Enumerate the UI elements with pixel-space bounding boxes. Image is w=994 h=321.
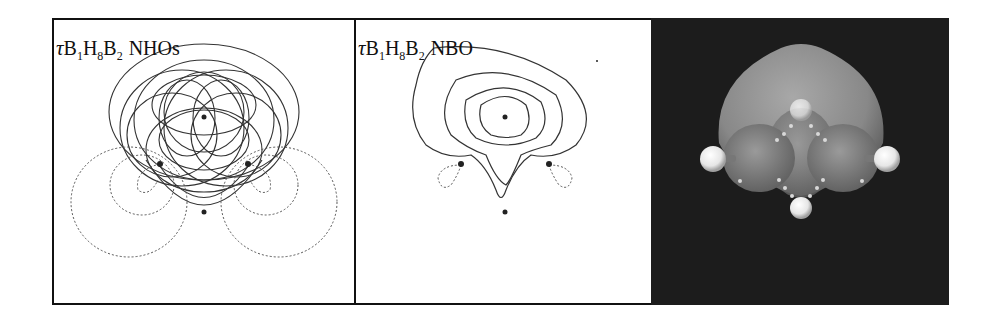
orbital-surface-panel (651, 18, 949, 305)
orbital-surface-render (651, 18, 949, 305)
nbo-contour-panel: τB1H8B2NBO (355, 18, 651, 305)
nho-contour-panel: τB1H8B2NHOs (52, 18, 355, 305)
hydrogen-atom-top (790, 99, 812, 121)
nbo-panel-label: τB1H8B2NBO (358, 36, 473, 64)
nho-panel-label: τB1H8B2NHOs (56, 36, 180, 64)
figure: τB1H8B2NHOs τB1H8B2NBO (52, 18, 949, 305)
hydrogen-atom-right (874, 146, 900, 172)
hydrogen-atom-bottom (790, 197, 812, 219)
hydrogen-atom-left (700, 146, 726, 172)
atom-dot-top (202, 115, 207, 120)
